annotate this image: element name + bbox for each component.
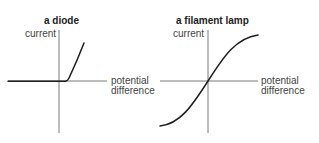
diode-curve <box>8 43 84 81</box>
lamp-x-axis-label-line2: difference <box>261 86 305 96</box>
diode-graph <box>8 30 107 133</box>
diode-x-axis-label-line2: difference <box>111 86 155 96</box>
diode-y-axis-label: current <box>25 29 56 39</box>
lamp-y-axis-label: current <box>173 29 204 39</box>
lamp-title: a filament lamp <box>176 16 249 26</box>
lamp-curve <box>160 35 258 126</box>
lamp-graph <box>160 30 258 133</box>
diode-title: a diode <box>44 16 79 26</box>
